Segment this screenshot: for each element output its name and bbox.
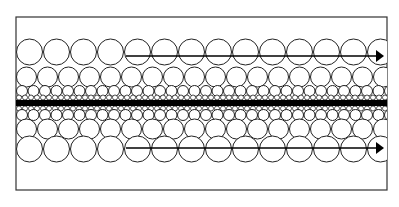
- particle-circle: [17, 39, 43, 65]
- particle-circle: [178, 110, 189, 121]
- particle-circle: [191, 95, 196, 100]
- particle-circle: [143, 67, 163, 87]
- center-bar: [16, 100, 387, 106]
- particle-circle: [167, 95, 172, 100]
- top-row-large: [17, 39, 394, 65]
- diagram-canvas: [0, 0, 399, 207]
- particle-circle: [233, 95, 238, 100]
- particle-circle: [98, 136, 124, 162]
- particle-circle: [164, 67, 184, 87]
- particle-circle: [197, 95, 202, 100]
- particle-circle: [304, 110, 315, 121]
- particle-circle: [383, 95, 388, 100]
- particle-circle: [269, 67, 289, 87]
- particle-circle: [245, 95, 250, 100]
- particle-circle: [35, 95, 40, 100]
- particle-circle: [227, 95, 232, 100]
- particle-circle: [371, 95, 376, 100]
- particle-circle: [179, 95, 184, 100]
- particle-circle: [17, 136, 43, 162]
- particle-circle: [359, 106, 364, 111]
- particle-circle: [83, 106, 88, 111]
- bottom-row-large: [17, 136, 394, 162]
- particle-circle: [23, 95, 28, 100]
- particle-circle: [113, 95, 118, 100]
- particle-circle: [332, 67, 352, 87]
- particle-circle: [161, 95, 166, 100]
- particle-circle: [77, 95, 82, 100]
- particle-circle: [131, 95, 136, 100]
- particle-circle: [353, 67, 373, 87]
- particle-circle: [179, 39, 205, 65]
- particle-circle: [101, 67, 121, 87]
- particle-circle: [287, 95, 292, 100]
- particle-circle: [98, 39, 124, 65]
- particle-circle: [323, 95, 328, 100]
- particle-circle: [239, 95, 244, 100]
- particle-circle: [260, 39, 286, 65]
- particle-circle: [341, 39, 367, 65]
- particle-circle: [185, 67, 205, 87]
- particle-circle: [332, 119, 352, 139]
- particle-circle: [269, 95, 274, 100]
- particle-circle: [233, 136, 259, 162]
- particle-circle: [311, 67, 331, 87]
- particle-circle: [38, 67, 58, 87]
- particle-circle: [51, 110, 62, 121]
- particle-circle: [290, 67, 310, 87]
- particle-circle: [233, 39, 259, 65]
- particle-circle: [95, 95, 100, 100]
- particle-circle: [53, 95, 58, 100]
- particle-circle: [281, 110, 292, 121]
- particle-circle: [152, 39, 178, 65]
- particle-circle: [137, 95, 142, 100]
- particle-circle: [107, 95, 112, 100]
- particle-circle: [248, 67, 268, 87]
- particle-circle: [206, 136, 232, 162]
- particle-circle: [227, 67, 247, 87]
- particle-circle: [281, 95, 286, 100]
- particle-circle: [293, 95, 298, 100]
- top-row-tiny: [17, 95, 388, 100]
- flow-diagram: [0, 0, 399, 207]
- particle-circle: [29, 95, 34, 100]
- particle-circle: [47, 95, 52, 100]
- particle-circle: [44, 39, 70, 65]
- particle-circle: [299, 95, 304, 100]
- particle-circle: [71, 95, 76, 100]
- particle-circle: [179, 136, 205, 162]
- particle-circle: [143, 119, 163, 139]
- particle-circle: [185, 95, 190, 100]
- particle-circle: [359, 95, 364, 100]
- particle-circle: [149, 95, 154, 100]
- particle-circle: [263, 95, 268, 100]
- particle-circle: [125, 39, 151, 65]
- particle-circle: [17, 95, 22, 100]
- particle-circle: [335, 95, 340, 100]
- particle-circle: [119, 95, 124, 100]
- particle-circle: [59, 119, 79, 139]
- particle-circle: [221, 95, 226, 100]
- particle-circle: [65, 95, 70, 100]
- particle-circle: [287, 136, 313, 162]
- particle-circle: [155, 110, 166, 121]
- particle-circle: [97, 110, 108, 121]
- particle-circle: [257, 95, 262, 100]
- particle-circle: [89, 95, 94, 100]
- particle-circle: [28, 110, 39, 121]
- particle-circle: [341, 136, 367, 162]
- particle-circle: [287, 39, 313, 65]
- particle-circle: [122, 67, 142, 87]
- particle-circle: [365, 95, 370, 100]
- particle-circle: [59, 67, 79, 87]
- particle-circle: [353, 95, 358, 100]
- particle-circle: [221, 106, 226, 111]
- particle-circle: [125, 136, 151, 162]
- particle-circle: [80, 67, 100, 87]
- particle-circle: [317, 95, 322, 100]
- particle-circle: [260, 136, 286, 162]
- particle-circle: [215, 95, 220, 100]
- particle-circle: [74, 110, 85, 121]
- particle-circle: [152, 136, 178, 162]
- particle-circle: [41, 95, 46, 100]
